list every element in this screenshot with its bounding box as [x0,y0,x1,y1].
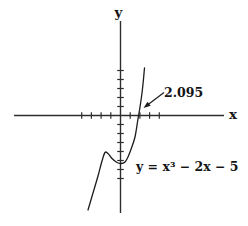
root-arrow-line [147,93,164,105]
cubic-function-figure: y x 2.095 y = x³ − 2x − 5 [0,0,248,226]
root-value-label: 2.095 [164,85,203,100]
cubic-graph-svg: y x 2.095 y = x³ − 2x − 5 [0,0,248,226]
cubic-curve [88,68,145,210]
y-axis-label: y [114,4,124,20]
equation-label: y = x³ − 2x − 5 [135,159,239,174]
x-axis-label: x [229,106,238,122]
root-arrowhead-icon [144,102,151,108]
